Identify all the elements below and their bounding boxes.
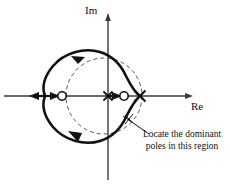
- locus-direction-arrow-upper: [71, 56, 85, 64]
- root-locus-figure: Im Re Locate the dominant poles in this …: [0, 0, 230, 195]
- imaginary-axis-arrowhead: [105, 13, 111, 21]
- real-axis-arrowhead: [185, 93, 193, 99]
- real-axis-arrow-left: [29, 92, 39, 100]
- annotation-text: Locate the dominant poles in this region: [134, 129, 230, 152]
- imaginary-axis-label: Im: [85, 5, 97, 16]
- annotation-text-line-1: Locate the dominant: [134, 129, 230, 141]
- zero-right-marker: [120, 92, 128, 100]
- root-locus-canvas: [0, 0, 230, 195]
- zero-left-marker: [58, 92, 66, 100]
- real-axis-label: Re: [191, 101, 203, 112]
- annotation-text-line-2: poles in this region: [134, 141, 230, 153]
